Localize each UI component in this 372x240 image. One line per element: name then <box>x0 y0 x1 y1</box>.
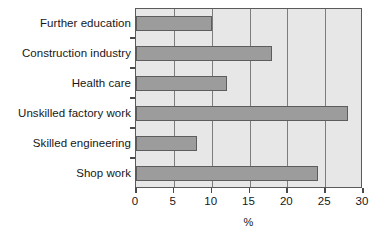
y-tick-3 <box>130 97 135 99</box>
gridline-20 <box>287 9 288 187</box>
x-tick-30 <box>362 188 364 193</box>
x-tick-0 <box>135 188 137 193</box>
plot-area <box>135 8 362 188</box>
x-tick-label-20: 20 <box>271 195 301 207</box>
bar-health-care <box>136 76 227 91</box>
y-tick-4 <box>130 127 135 129</box>
y-tick-2 <box>130 67 135 69</box>
x-tick-10 <box>211 188 213 193</box>
bar-construction-industry <box>136 46 272 61</box>
category-label-unskilled-factory-work: Unskilled factory work <box>0 106 131 120</box>
gridline-25 <box>325 9 326 187</box>
category-label-health-care: Health care <box>0 76 131 90</box>
bar-shop-work <box>136 166 318 181</box>
category-label-construction-industry: Construction industry <box>0 46 131 60</box>
y-tick-5 <box>130 157 135 159</box>
gridline-15 <box>250 9 251 187</box>
category-label-shop-work: Shop work <box>0 166 131 180</box>
gridline-10 <box>212 9 213 187</box>
x-tick-label-5: 5 <box>158 195 188 207</box>
x-tick-20 <box>286 188 288 193</box>
x-tick-label-0: 0 <box>120 195 150 207</box>
x-tick-5 <box>173 188 175 193</box>
category-label-skilled-engineering: Skilled engineering <box>0 136 131 150</box>
bar-further-education <box>136 16 212 31</box>
category-label-further-education: Further education <box>0 16 131 30</box>
bar-unskilled-factory-work <box>136 106 348 121</box>
x-tick-label-10: 10 <box>196 195 226 207</box>
x-tick-25 <box>324 188 326 193</box>
x-tick-label-30: 30 <box>347 195 372 207</box>
x-tick-label-15: 15 <box>234 195 264 207</box>
x-tick-label-25: 25 <box>309 195 339 207</box>
y-tick-1 <box>130 37 135 39</box>
gridline-5 <box>174 9 175 187</box>
bar-chart: Further education Construction industry … <box>0 0 372 240</box>
bar-skilled-engineering <box>136 136 197 151</box>
x-tick-15 <box>249 188 251 193</box>
category-axis-labels: Further education Construction industry … <box>0 8 131 188</box>
x-axis-title: % <box>135 216 362 228</box>
